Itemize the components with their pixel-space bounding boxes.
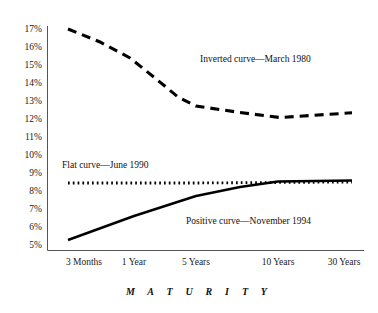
chart-canvas: 17% 16% 15% 14% 13% 12% 11% 10% 9% 8% 7%… <box>0 0 378 313</box>
y-tick-label: 17% <box>25 24 43 34</box>
y-tick-label: 13% <box>25 96 43 106</box>
y-axis-tick-labels: 17% 16% 15% 14% 13% 12% 11% 10% 9% 8% 7%… <box>25 24 43 250</box>
x-tick-label: 3 Months <box>66 257 102 267</box>
annotation-positive-curve: Positive curve—November 1994 <box>186 216 311 226</box>
annotation-flat-curve: Flat curve—June 1990 <box>62 160 149 170</box>
y-tick-label: 11% <box>25 132 42 142</box>
x-tick-label: 10 Years <box>262 257 295 267</box>
y-tick-label: 14% <box>25 78 43 88</box>
x-axis-title: M A T U R I T Y <box>125 286 272 297</box>
annotation-inverted-curve: Inverted curve—March 1980 <box>200 54 311 64</box>
series-positive-curve <box>68 181 352 241</box>
x-tick-label: 5 Years <box>182 257 210 267</box>
x-axis-tick-labels: 3 Months 1 Year 5 Years 10 Years 30 Year… <box>66 257 361 267</box>
x-tick-label: 30 Years <box>328 257 361 267</box>
y-tick-label: 10% <box>25 150 43 160</box>
y-tick-label: 9% <box>29 168 42 178</box>
series-inverted-curve <box>68 29 352 118</box>
y-tick-label: 16% <box>25 42 43 52</box>
y-tick-label: 7% <box>29 204 42 214</box>
y-tick-label: 5% <box>29 240 42 250</box>
y-tick-label: 12% <box>25 114 43 124</box>
yield-curve-figure: 17% 16% 15% 14% 13% 12% 11% 10% 9% 8% 7%… <box>0 0 378 313</box>
y-tick-label: 6% <box>29 222 42 232</box>
x-tick-label: 1 Year <box>122 257 147 267</box>
y-tick-label: 15% <box>25 60 43 70</box>
y-tick-label: 8% <box>29 186 42 196</box>
